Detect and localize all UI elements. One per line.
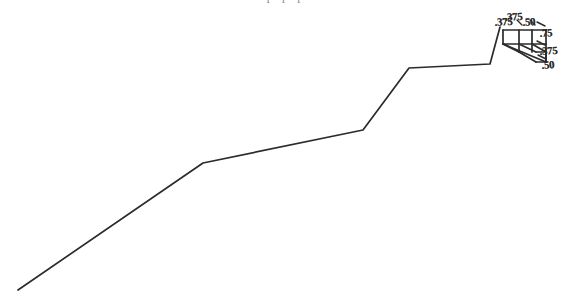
drawing-canvas: [0, 0, 573, 308]
dim-label-right-lower: .50: [541, 59, 554, 71]
profile-polyline: [18, 27, 500, 290]
profile-line-group: [18, 27, 500, 290]
dim-label-top-right: .50: [522, 16, 535, 28]
dim-label-right-upper: .75: [539, 27, 552, 39]
dimension-tick-mark: [537, 22, 545, 26]
drawing-page: p p p .375.375.50.75.375.50: [0, 0, 573, 308]
detail-box-edge: [503, 44, 519, 52]
dim-label-top-mid: .375: [504, 11, 522, 23]
dim-label-right-mid: .375: [539, 45, 557, 57]
